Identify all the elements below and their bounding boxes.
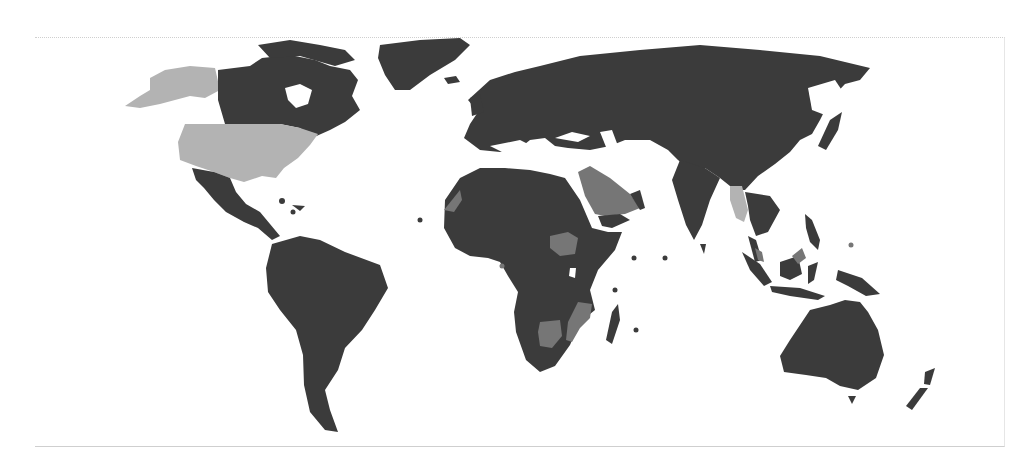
- region-yemen[interactable]: [598, 214, 630, 228]
- region-southeast-asia[interactable]: [745, 192, 780, 236]
- region-madagascar[interactable]: [606, 304, 620, 344]
- region-japan[interactable]: [818, 112, 842, 150]
- region-alaska[interactable]: [125, 66, 220, 108]
- world-map: [0, 0, 1031, 467]
- region-saudi-arabia[interactable]: [578, 166, 640, 216]
- region-new-zealand[interactable]: [924, 368, 935, 385]
- region-eurasia[interactable]: [464, 45, 870, 190]
- region-myanmar[interactable]: [730, 186, 748, 222]
- region-south-america[interactable]: [266, 236, 388, 432]
- region-papua-new-guinea[interactable]: [836, 270, 880, 296]
- region-australia[interactable]: [780, 300, 884, 390]
- region-philippines[interactable]: [805, 214, 820, 250]
